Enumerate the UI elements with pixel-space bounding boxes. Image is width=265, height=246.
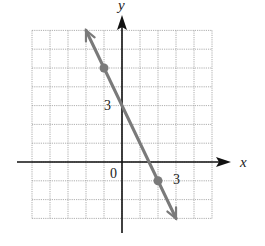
x-axis-label: x xyxy=(239,154,247,170)
y-axis-label: y xyxy=(116,0,125,13)
y-tick-label: 3 xyxy=(104,98,111,113)
origin-label: 0 xyxy=(110,166,117,181)
coordinate-plane: x y 0 3 3 xyxy=(0,0,265,246)
data-point xyxy=(154,176,163,185)
data-point xyxy=(100,64,109,73)
axes xyxy=(17,15,231,233)
x-tick-label: 3 xyxy=(173,172,180,187)
